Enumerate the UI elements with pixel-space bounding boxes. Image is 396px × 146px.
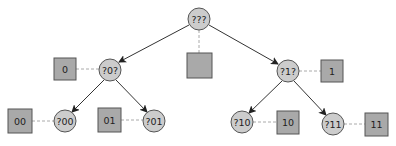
binary-tree-diagram: 0 1 00 01 10 11 ??? ?0? ?1? ?00 ?01	[0, 0, 396, 146]
node-10-label: ?10	[233, 117, 250, 128]
edge-root-n0	[119, 25, 189, 62]
square-00-label: 00	[14, 116, 26, 127]
square-10: 10	[277, 111, 299, 134]
edge-n1-n11	[294, 81, 326, 115]
square-1: 1	[321, 60, 343, 82]
node-11: ?11	[322, 113, 344, 135]
node-1: ?1?	[277, 60, 299, 82]
square-1-label: 1	[329, 66, 335, 77]
node-root-label: ???	[191, 14, 206, 25]
square-0: 0	[54, 58, 76, 80]
square-00: 00	[8, 109, 32, 133]
edge-n0-n01	[116, 80, 147, 112]
node-00-label: ?00	[56, 116, 73, 127]
node-0: ?0?	[99, 59, 121, 81]
edge-n0-n00	[72, 80, 104, 112]
edge-n1-n10	[249, 81, 282, 113]
square-0-label: 0	[62, 64, 68, 75]
square-01-label: 01	[103, 115, 115, 126]
node-10: ?10	[231, 111, 253, 133]
node-0-label: ?0?	[102, 65, 118, 76]
square-10-label: 10	[282, 117, 294, 128]
node-root: ???	[188, 8, 210, 30]
node-11-label: ?11	[324, 119, 341, 130]
square-root	[187, 53, 212, 78]
square-root-box	[187, 53, 212, 78]
node-1-label: ?1?	[280, 66, 296, 77]
square-11-label: 11	[370, 119, 382, 130]
square-01: 01	[98, 108, 121, 132]
edge-root-n1	[209, 25, 278, 64]
node-00: ?00	[54, 110, 76, 132]
node-01: ?01	[143, 110, 165, 132]
square-11: 11	[365, 113, 388, 136]
node-01-label: ?01	[145, 116, 162, 127]
